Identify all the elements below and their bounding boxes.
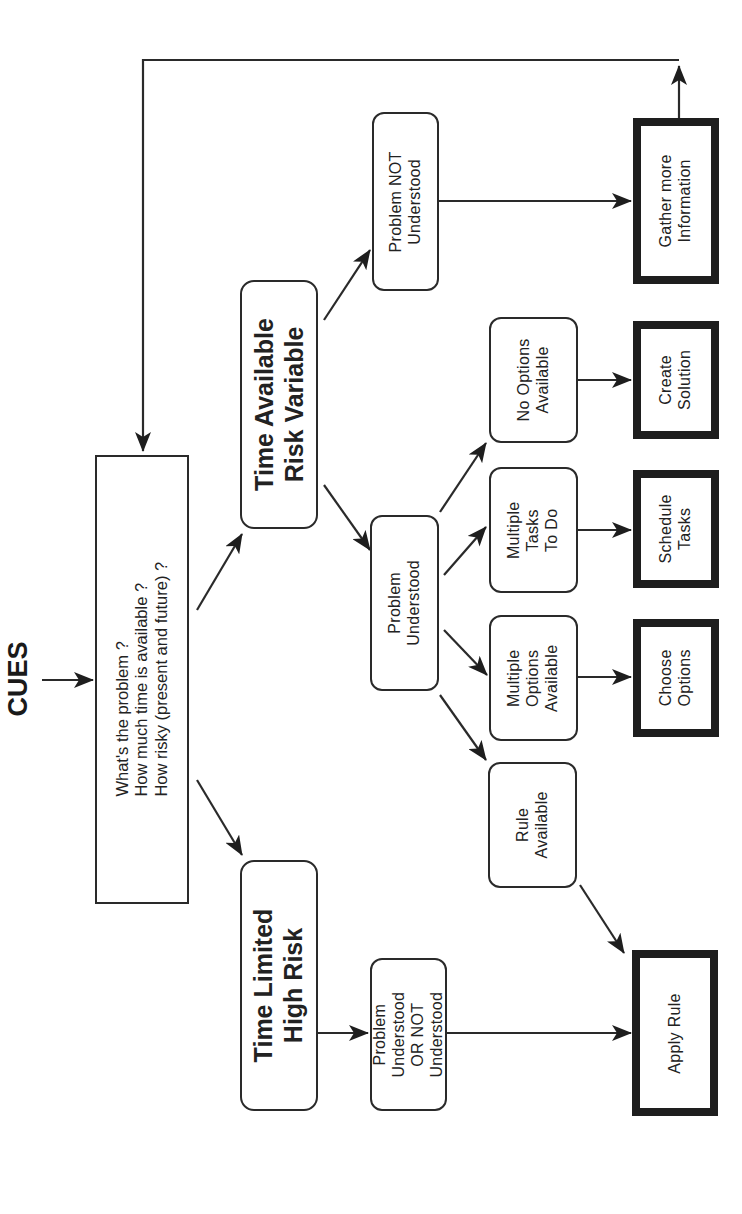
time-available-box: Time Available Risk Variable bbox=[240, 280, 318, 529]
time-limited-box: Time Limited High Risk bbox=[240, 860, 318, 1111]
no-options-label: No Options Available bbox=[515, 338, 553, 421]
arrow-to-rule-available bbox=[440, 695, 486, 760]
schedule-tasks-box: Schedule Tasks bbox=[633, 470, 719, 588]
arrow-to-problem-not-understood bbox=[324, 250, 370, 320]
problem-either-box: Problem Understood OR NOT Understood bbox=[370, 958, 447, 1111]
gather-info-box: Gather more Information bbox=[633, 118, 719, 284]
apply-rule-label: Apply Rule bbox=[666, 993, 685, 1073]
multiple-options-box: Multiple Options Available bbox=[489, 615, 578, 741]
arrow-question-to-time-limited bbox=[197, 780, 242, 855]
arrow-rule-to-apply bbox=[580, 885, 624, 953]
cues-label: CUES bbox=[3, 639, 33, 719]
multiple-tasks-box: Multiple Tasks To Do bbox=[489, 467, 578, 593]
gather-info-label: Gather more Information bbox=[657, 154, 695, 247]
problem-not-understood-box: Problem NOT Understood bbox=[372, 112, 439, 291]
create-solution-box: Create Solution bbox=[633, 321, 719, 439]
rule-available-box: Rule Available bbox=[488, 762, 577, 888]
problem-understood-label: Problem Understood bbox=[386, 560, 424, 646]
time-available-label: Time Available Risk Variable bbox=[250, 318, 309, 491]
time-limited-label: Time Limited High Risk bbox=[250, 909, 309, 1063]
multiple-tasks-label: Multiple Tasks To Do bbox=[505, 501, 562, 559]
problem-understood-box: Problem Understood bbox=[370, 515, 439, 691]
problem-not-understood-label: Problem NOT Understood bbox=[387, 151, 425, 252]
create-solution-label: Create Solution bbox=[657, 350, 695, 410]
arrow-question-to-time-available bbox=[197, 534, 242, 610]
arrow-to-no-options bbox=[440, 443, 486, 512]
choose-options-label: Choose Options bbox=[657, 649, 695, 706]
multiple-options-label: Multiple Options Available bbox=[505, 644, 562, 711]
problem-either-label: Problem Understood OR NOT Understood bbox=[371, 992, 447, 1078]
question-text: What's the problem ? How much time is av… bbox=[113, 562, 171, 797]
schedule-tasks-label: Schedule Tasks bbox=[657, 494, 695, 563]
arrow-to-multiple-options bbox=[444, 630, 487, 675]
apply-rule-box: Apply Rule bbox=[632, 950, 718, 1116]
rule-available-label: Rule Available bbox=[514, 791, 552, 858]
arrow-to-problem-understood bbox=[324, 485, 370, 550]
no-options-box: No Options Available bbox=[489, 317, 578, 443]
arrow-to-multiple-tasks bbox=[444, 527, 486, 575]
question-box: What's the problem ? How much time is av… bbox=[95, 455, 189, 904]
choose-options-box: Choose Options bbox=[633, 619, 719, 737]
